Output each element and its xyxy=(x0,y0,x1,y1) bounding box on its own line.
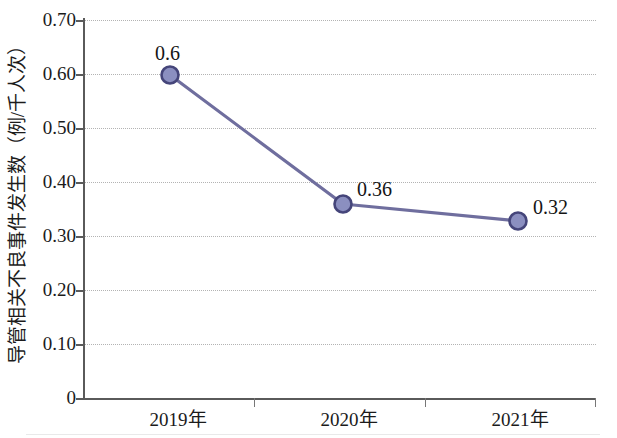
y-axis-line xyxy=(83,18,85,400)
y-tick-label: 0.20 xyxy=(14,279,76,301)
y-tick-label: 0.60 xyxy=(14,63,76,85)
y-tick-label: 0 xyxy=(14,387,76,409)
y-axis-tick-labels: 0.70 0.60 0.50 0.40 0.30 0.20 0.10 0 xyxy=(14,0,76,438)
x-tick-mark xyxy=(595,398,596,407)
x-tick-mark xyxy=(254,398,255,407)
line-chart: 导管相关不良事件发生数（例/千人次） 0.70 0.60 0.50 0.40 0… xyxy=(0,0,617,438)
y-tick-label: 0.30 xyxy=(14,225,76,247)
y-tick-label: 0.70 xyxy=(14,9,76,31)
gridline xyxy=(83,20,596,21)
data-point-label: 0.6 xyxy=(155,42,180,65)
scan-artifact-line xyxy=(26,434,600,435)
gridline xyxy=(83,344,596,345)
gridline xyxy=(83,290,596,291)
gridline xyxy=(83,236,596,237)
y-tick-label: 0.40 xyxy=(14,171,76,193)
x-axis-line xyxy=(83,398,596,400)
data-point-label: 0.32 xyxy=(533,196,568,219)
x-axis-category-label: 2020年 xyxy=(289,404,409,431)
y-tick-label: 0.10 xyxy=(14,333,76,355)
gridline xyxy=(83,128,596,129)
gridline xyxy=(83,74,596,75)
y-tick-label: 0.50 xyxy=(14,117,76,139)
x-axis-category-label: 2019年 xyxy=(118,404,238,431)
x-tick-mark xyxy=(425,398,426,407)
data-point-label: 0.36 xyxy=(357,178,392,201)
gridline xyxy=(83,182,596,183)
plot-area xyxy=(83,20,596,398)
x-axis-category-label: 2021年 xyxy=(460,404,580,431)
